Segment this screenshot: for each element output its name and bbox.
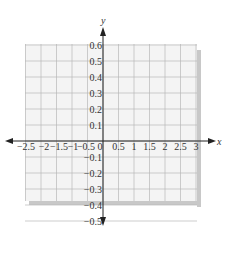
x-tick-label: 1.5 (143, 141, 156, 152)
y-tick-label: 0.6 (90, 40, 103, 51)
y-tick-label: 0.4 (90, 72, 103, 83)
x-axis-label: x (216, 136, 222, 147)
x-tick-label: −2.5 (17, 141, 35, 152)
x-tick-label: −0.5 (77, 141, 95, 152)
x-tick-label: 3 (194, 141, 199, 152)
y-axis-label: y (100, 15, 106, 26)
y-tick-label: 0.2 (90, 104, 103, 115)
grid (25, 44, 197, 221)
y-tick-label: 0.1 (90, 120, 103, 131)
coordinate-grid-chart: −2.5−2−1.5−1−0.500.511.522.53 0.60.50.40… (0, 0, 229, 253)
chart-svg: −2.5−2−1.5−1−0.500.511.522.53 0.60.50.40… (0, 0, 229, 253)
y-tick-label: 0.3 (90, 88, 103, 99)
x-tick-label: −2 (39, 141, 50, 152)
y-tick-label: −0.1 (84, 152, 102, 163)
y-tick-label: −0.5 (84, 216, 102, 227)
y-tick-label: 0.5 (90, 56, 103, 67)
y-tick-label: −0.4 (84, 200, 102, 211)
y-tick-label: −0.2 (84, 168, 102, 179)
x-tick-label: 0 (98, 141, 103, 152)
x-tick-label: 2.5 (174, 141, 187, 152)
x-tick-label: 0.5 (112, 141, 125, 152)
y-tick-label: −0.3 (84, 184, 102, 195)
x-tick-label: 2 (163, 141, 168, 152)
x-tick-label: 1 (132, 141, 137, 152)
x-tick-label: −1.5 (50, 141, 68, 152)
